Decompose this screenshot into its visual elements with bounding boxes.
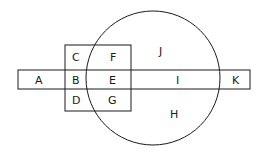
circle: [86, 11, 220, 145]
label-f: F: [110, 51, 116, 64]
label-e: E: [109, 74, 116, 87]
label-g: G: [108, 94, 117, 107]
label-d: D: [72, 94, 80, 107]
label-a: A: [35, 74, 43, 87]
label-j: J: [158, 45, 162, 58]
horizontal-rectangle: [18, 70, 250, 89]
label-i: I: [176, 74, 179, 87]
region-diagram: A B C D E F G H I J K: [0, 0, 261, 155]
label-b: B: [72, 74, 80, 87]
label-k: K: [232, 74, 240, 87]
label-h: H: [170, 108, 178, 121]
label-c: C: [72, 51, 80, 64]
